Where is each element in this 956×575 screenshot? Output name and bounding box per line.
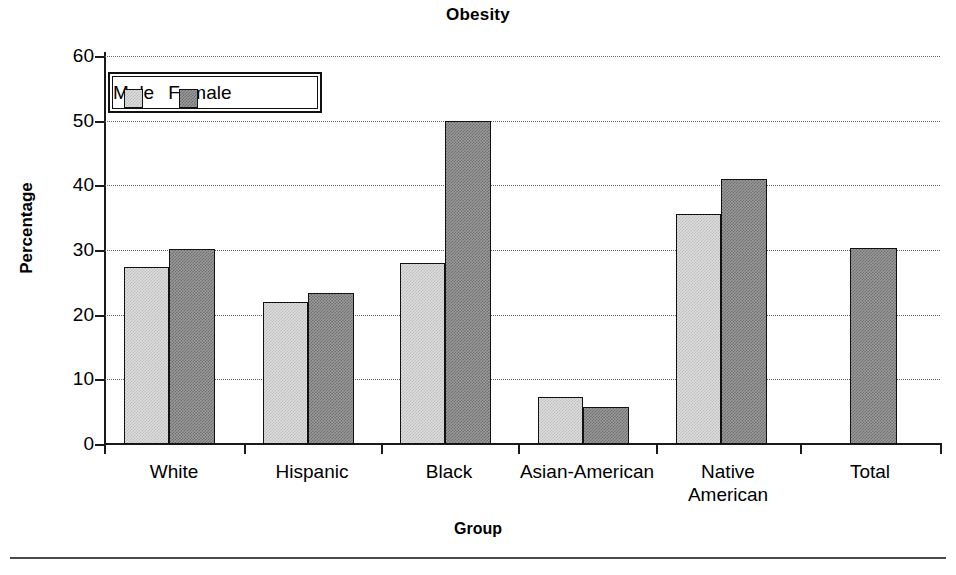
x-tick-2 <box>381 443 383 454</box>
x-tick-0 <box>104 443 106 454</box>
x-category-label-total: Total <box>780 460 956 483</box>
bottom-divider <box>10 557 946 559</box>
y-axis-label: Percentage <box>17 113 37 343</box>
legend-entry-female: Female <box>168 83 231 102</box>
bar-hispanic-male <box>263 302 308 444</box>
x-tick-5 <box>800 443 802 454</box>
bar-black-male <box>400 263 445 444</box>
legend-swatch-female-icon <box>179 89 198 108</box>
legend-label-female: Female <box>168 83 231 102</box>
bar-hispanic-female <box>308 293 354 444</box>
x-tick-1 <box>244 443 246 454</box>
bar-asian-american-male <box>538 397 583 444</box>
x-tick-3 <box>518 443 520 454</box>
x-category-label-line1: Total <box>780 460 956 483</box>
chart-title: Obesity <box>0 5 956 25</box>
y-tick-label: 50 <box>52 111 94 130</box>
bar-native-american-male <box>676 214 721 444</box>
y-tick-label: 40 <box>52 175 94 194</box>
obesity-bar-chart-figure: Obesity Percentage 6050403020100 WhiteHi… <box>0 0 956 575</box>
bar-black-female <box>445 121 491 444</box>
bar-white-female <box>169 249 215 444</box>
legend: Male Female <box>108 72 322 113</box>
x-category-label-line2: American <box>638 483 818 506</box>
y-tick-label: 30 <box>52 240 94 259</box>
y-tick-label: 20 <box>52 305 94 324</box>
x-axis-label: Group <box>0 520 956 538</box>
bars-layer <box>104 56 942 444</box>
legend-swatch-male-icon <box>124 89 143 108</box>
x-tick-4 <box>656 443 658 454</box>
bar-white-male <box>124 267 169 444</box>
legend-entry-male: Male <box>113 83 154 102</box>
y-tick-label: 60 <box>52 46 94 65</box>
bar-native-american-female <box>721 179 767 444</box>
y-tick-label: 10 <box>52 369 94 388</box>
bar-total-female <box>850 248 897 444</box>
y-tick-label: 0 <box>52 434 94 453</box>
bar-asian-american-female <box>583 407 629 445</box>
x-tick-6 <box>940 443 942 454</box>
legend-inner-frame: Male Female <box>112 76 318 109</box>
y-axis-tick-labels: 6050403020100 <box>48 56 94 444</box>
